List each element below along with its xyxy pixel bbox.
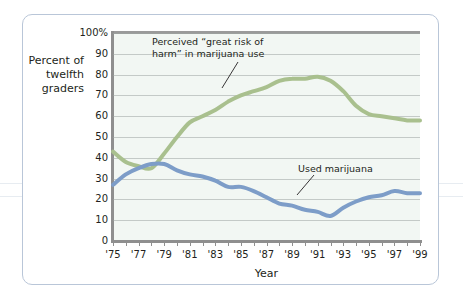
x-tick-label: '91: [310, 249, 325, 260]
x-tick: [254, 241, 255, 246]
y-tick-labels-group: 0102030405060708090100%: [60, 0, 108, 300]
x-tick-label: '99: [412, 249, 427, 260]
y-tick-label: 50: [95, 132, 108, 142]
x-tick: [177, 241, 178, 246]
x-tick-label: '79: [156, 249, 171, 260]
y-tick-label: 100%: [79, 28, 108, 38]
x-tick: [190, 241, 191, 246]
y-tick-label: 70: [95, 90, 108, 100]
gridline: [113, 199, 420, 200]
y-tick-label: 20: [95, 194, 108, 204]
annotation-used-marijuana: Used marijuana: [298, 163, 373, 175]
x-tick-label: '97: [387, 249, 402, 260]
x-tick: [203, 241, 204, 246]
x-tick-label: '89: [284, 249, 299, 260]
x-tick: [382, 241, 383, 246]
x-axis-title: Year: [113, 267, 420, 280]
gridline: [113, 158, 420, 159]
x-tick: [267, 241, 268, 246]
gridline: [113, 33, 420, 34]
x-tick: [292, 241, 293, 246]
x-tick: [356, 241, 357, 246]
chart-figure: 0102030405060708090100% '75'77'79'81'83'…: [0, 0, 463, 300]
x-tick: [369, 241, 370, 246]
annotation-perceived-risk: Perceived “great risk of harm” in mariju…: [152, 36, 264, 60]
gridline: [113, 95, 420, 96]
gridline: [113, 220, 420, 221]
x-tick: [139, 241, 140, 246]
x-tick: [305, 241, 306, 246]
x-tick-label: '83: [208, 249, 223, 260]
x-tick: [331, 241, 332, 246]
y-tick-label: 0: [102, 236, 108, 246]
x-tick: [407, 241, 408, 246]
y-tick-label: 90: [95, 49, 108, 59]
y-tick-label: 10: [95, 215, 108, 225]
x-tick-label: '81: [182, 249, 197, 260]
x-tick-label: '77: [131, 249, 146, 260]
y-axis-title: Percent of twelfth graders: [22, 54, 84, 96]
y-tick-label: 30: [95, 174, 108, 184]
x-tick-label: '87: [259, 249, 274, 260]
x-tick: [241, 241, 242, 246]
x-tick: [394, 241, 395, 246]
x-tick-label: '93: [336, 249, 351, 260]
x-tick: [164, 241, 165, 246]
x-tick: [113, 241, 114, 246]
x-tick-label: '75: [105, 249, 120, 260]
x-tick: [420, 241, 421, 246]
x-tick-label: '95: [361, 249, 376, 260]
x-tick: [228, 241, 229, 246]
gridline: [113, 116, 420, 117]
x-tick: [151, 241, 152, 246]
x-tick: [318, 241, 319, 246]
gridline: [113, 137, 420, 138]
x-tick: [343, 241, 344, 246]
gridline: [113, 179, 420, 180]
x-tick-label: '85: [233, 249, 248, 260]
x-tick: [215, 241, 216, 246]
y-tick-label: 40: [95, 153, 108, 163]
x-tick: [279, 241, 280, 246]
y-tick-label: 60: [95, 111, 108, 121]
gridline: [113, 75, 420, 76]
x-tick: [126, 241, 127, 246]
y-tick-label: 80: [95, 70, 108, 80]
